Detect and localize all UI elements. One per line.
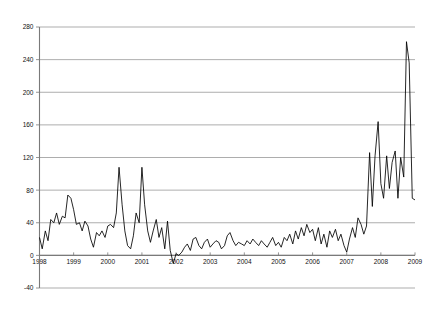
xtick-label-2000: 2000 (101, 258, 116, 265)
xtick-label-2002: 2002 (169, 258, 184, 265)
ytick-label-280: 280 (23, 23, 34, 30)
xtick-label-1999: 1999 (66, 258, 81, 265)
ytick-label-80: 80 (26, 187, 34, 194)
ytick-label-200: 200 (23, 89, 34, 96)
chart-canvas: -4004080120160200240280 1998199920002001… (0, 0, 434, 310)
xtick-label-2007: 2007 (339, 258, 354, 265)
ytick-label-40: 40 (26, 219, 34, 226)
gridlines (40, 27, 416, 288)
ytick-label-160: 160 (23, 121, 34, 128)
data-series (40, 42, 416, 264)
xtick-label-2005: 2005 (271, 258, 286, 265)
xtick-label-2006: 2006 (305, 258, 320, 265)
ytick-label-240: 240 (23, 56, 34, 63)
xtick-label-2004: 2004 (237, 258, 252, 265)
line-chart: -4004080120160200240280 1998199920002001… (0, 0, 434, 310)
ytick-label-120: 120 (23, 154, 34, 161)
xtick-label-2003: 2003 (203, 258, 218, 265)
xtick-label-2009: 2009 (408, 258, 423, 265)
xtick-label-2001: 2001 (135, 258, 150, 265)
series-line-1 (40, 42, 416, 264)
x-axis-labels: 1998199920002001200220032004200520062007… (32, 258, 422, 265)
xtick-label-2008: 2008 (374, 258, 389, 265)
ytick-label--40: -40 (24, 284, 34, 291)
y-axis-labels: -4004080120160200240280 (23, 23, 34, 291)
